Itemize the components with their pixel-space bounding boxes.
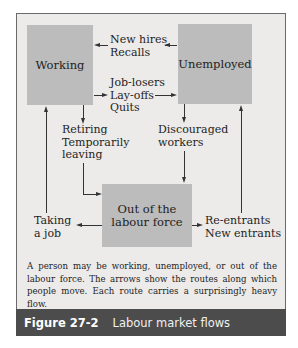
figure-description: A person may be working, unemployed, or …	[27, 260, 277, 310]
arrowhead-left-icon	[164, 43, 170, 47]
flow-label-discouraged: Discouraged workers	[158, 124, 228, 149]
flow-text: New hires	[110, 33, 167, 46]
flow-text: leaving	[62, 148, 102, 161]
arrow-line	[155, 95, 171, 96]
flow-text: Recalls	[110, 46, 150, 59]
node-unemployed: Unemployed	[178, 24, 252, 104]
flow-text: Re-entrants	[205, 214, 271, 227]
flow-text: Lay-offs	[110, 89, 154, 102]
diagram-panel: Working Unemployed Out of the labour for…	[16, 13, 286, 310]
arrow-line	[100, 45, 108, 46]
figure-title: Labour market flows	[112, 316, 230, 330]
arrowhead-left-icon	[94, 43, 100, 47]
arrowhead-up-icon	[44, 106, 48, 112]
flow-text: workers	[158, 136, 203, 149]
node-working-label: Working	[36, 59, 85, 72]
arrow-line	[241, 111, 242, 213]
flow-text: a job	[34, 227, 61, 240]
arrowhead-right-icon	[96, 192, 102, 196]
node-out-label-line1: Out of the	[118, 202, 177, 216]
figure-number: Figure 27-2	[24, 316, 98, 330]
arrowhead-down-icon	[182, 177, 186, 183]
node-unemployed-label: Unemployed	[178, 58, 251, 71]
arrowhead-right-icon	[102, 93, 108, 97]
arrowhead-right-icon	[197, 223, 203, 227]
arrowhead-left-icon	[76, 223, 82, 227]
flow-text: Retiring	[62, 123, 108, 136]
arrow-line	[46, 112, 47, 213]
node-out-of-labour-force: Out of the labour force	[102, 184, 192, 247]
arrow-line	[83, 194, 96, 195]
flow-label-taking-a-job: Taking a job	[34, 215, 71, 240]
flow-text: Discouraged	[158, 123, 228, 136]
arrow-line	[83, 163, 84, 194]
flow-label-retiring: Retiring Temporarily leaving	[62, 124, 129, 162]
arrowhead-up-icon	[239, 105, 243, 111]
figure: Working Unemployed Out of the labour for…	[16, 13, 286, 336]
flow-text: New entrants	[205, 227, 281, 240]
node-working: Working	[27, 25, 93, 105]
node-out-label: Out of the labour force	[111, 203, 182, 229]
flow-text: Temporarily	[62, 136, 129, 149]
figure-caption-bar: Figure 27-2 Labour market flows	[16, 309, 286, 336]
flow-label-new-hires: New hires Recalls	[110, 34, 167, 59]
arrow-line	[184, 104, 185, 118]
arrow-line	[83, 105, 84, 119]
arrow-line	[81, 225, 102, 226]
arrow-line	[94, 95, 102, 96]
node-out-label-line2: labour force	[111, 215, 182, 229]
flow-text: Quits	[110, 101, 140, 114]
flow-text: Taking	[34, 214, 71, 227]
arrowhead-right-icon	[171, 93, 177, 97]
flow-text: Job-losers	[110, 76, 165, 89]
arrow-line	[184, 151, 185, 178]
flow-label-re-entrants: Re-entrants New entrants	[205, 215, 281, 240]
